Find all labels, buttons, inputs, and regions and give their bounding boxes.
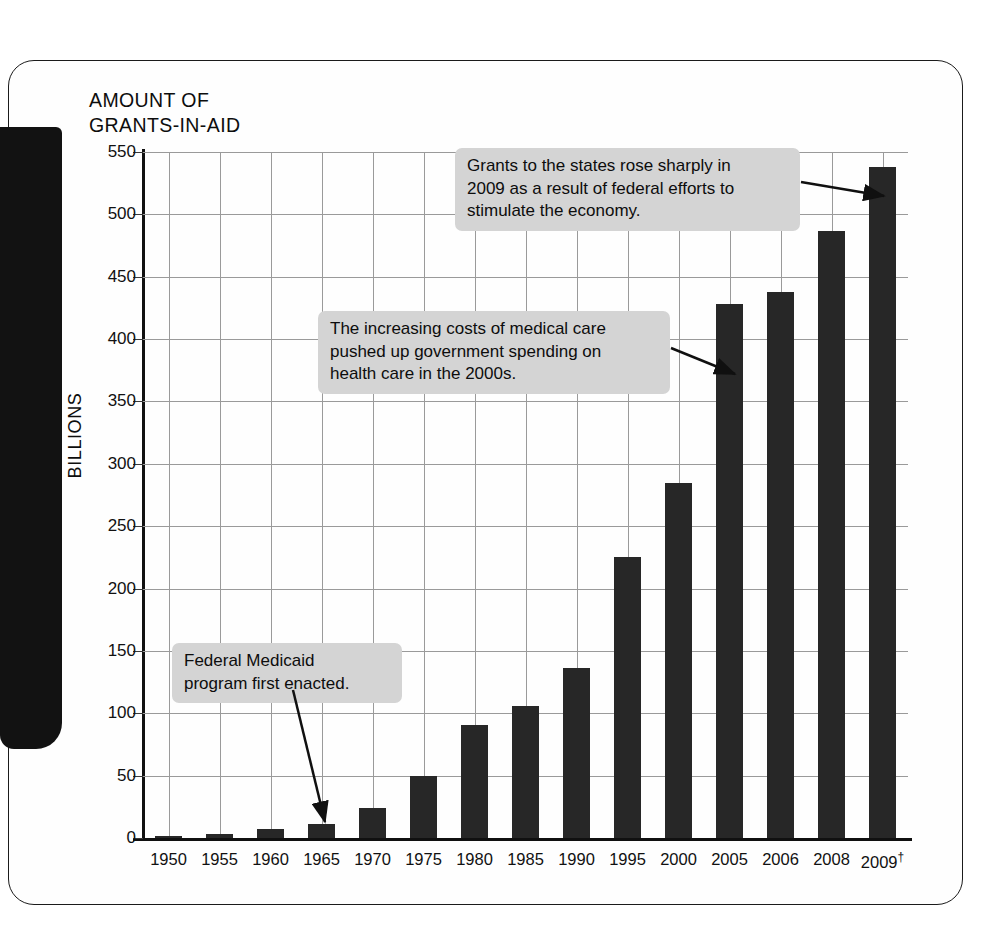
y-axis-tick-label: 500 <box>76 204 136 224</box>
bar-1970 <box>359 808 387 838</box>
bar-1995 <box>614 557 642 838</box>
x-axis-tick-label: 1985 <box>507 850 544 869</box>
bar-2005 <box>716 304 744 838</box>
y-axis-tick-label: 50 <box>76 766 136 786</box>
bar-1980 <box>461 725 489 839</box>
y-axis-tick-label: 350 <box>76 391 136 411</box>
bar-1955 <box>206 834 234 838</box>
y-axis-label: BILLIONS <box>65 356 86 516</box>
y-axis-tick-label: 200 <box>76 579 136 599</box>
bar-1950 <box>155 836 183 838</box>
y-axis-tick-label: 400 <box>76 329 136 349</box>
bar-2000 <box>665 483 693 838</box>
x-axis-tick-label: 1960 <box>252 850 289 869</box>
x-axis-tick-label: 1950 <box>150 850 187 869</box>
plot-area: 050100150200250300350400450500550 195019… <box>143 152 908 838</box>
y-axis-tick-label: 300 <box>76 454 136 474</box>
side-tab <box>0 127 62 749</box>
y-axis-tick-label: 450 <box>76 267 136 287</box>
annotation-callout-medicaid: Federal Medicaid program first enacted. <box>172 643 402 703</box>
bar-2008 <box>818 231 846 838</box>
bar-1985 <box>512 706 540 838</box>
x-axis-tick-label: 1970 <box>354 850 391 869</box>
y-axis-tick-label: 0 <box>76 828 136 848</box>
x-axis-tick-label: 1995 <box>609 850 646 869</box>
gridline-vertical <box>271 152 272 838</box>
annotation-callout-medical-care: The increasing costs of medical care pus… <box>318 311 670 394</box>
x-axis-line <box>133 838 912 841</box>
y-axis-line <box>142 149 145 840</box>
y-axis-tick-label: 150 <box>76 641 136 661</box>
x-axis-tick-label: 1965 <box>303 850 340 869</box>
x-axis-tick-label: 2008 <box>813 850 850 869</box>
gridline-vertical <box>220 152 221 838</box>
bar-1975 <box>410 776 438 838</box>
bar-2006 <box>767 292 795 838</box>
gridline-vertical <box>424 152 425 838</box>
bar-2009 <box>869 167 897 838</box>
gridline-vertical <box>169 152 170 838</box>
x-axis-tick-label: 2005 <box>711 850 748 869</box>
x-axis-tick-label: 2009† <box>861 850 904 872</box>
x-axis-tick-label: 2006 <box>762 850 799 869</box>
x-axis-tick-label: 1990 <box>558 850 595 869</box>
chart-title: AMOUNT OF GRANTS-IN-AID <box>89 88 240 138</box>
x-axis-tick-label: 2000 <box>660 850 697 869</box>
bar-1990 <box>563 668 591 838</box>
gridline-vertical <box>322 152 323 838</box>
annotation-callout-2009: Grants to the states rose sharply in 200… <box>455 148 800 231</box>
y-axis-tick-label: 550 <box>76 142 136 162</box>
x-axis-tick-label: 1975 <box>405 850 442 869</box>
y-axis-tick-label: 250 <box>76 516 136 536</box>
bar-1960 <box>257 829 285 838</box>
x-axis-tick-label: 1980 <box>456 850 493 869</box>
bar-1965 <box>308 824 336 838</box>
gridline-vertical <box>373 152 374 838</box>
y-axis-tick-label: 100 <box>76 703 136 723</box>
x-axis-tick-label: 1955 <box>201 850 238 869</box>
